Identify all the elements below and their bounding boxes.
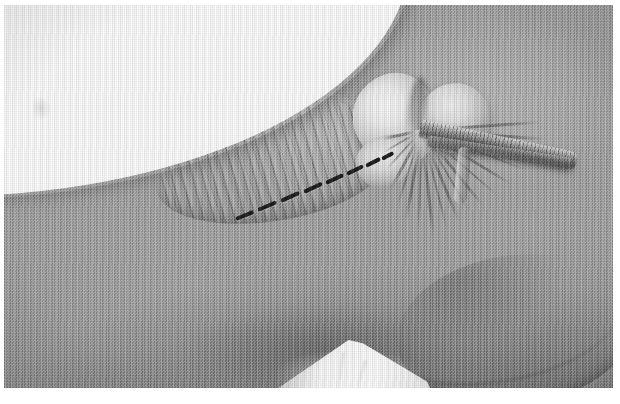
vignette-overlay <box>4 5 613 388</box>
figure-container <box>0 0 620 404</box>
photographic-plate <box>4 5 613 388</box>
